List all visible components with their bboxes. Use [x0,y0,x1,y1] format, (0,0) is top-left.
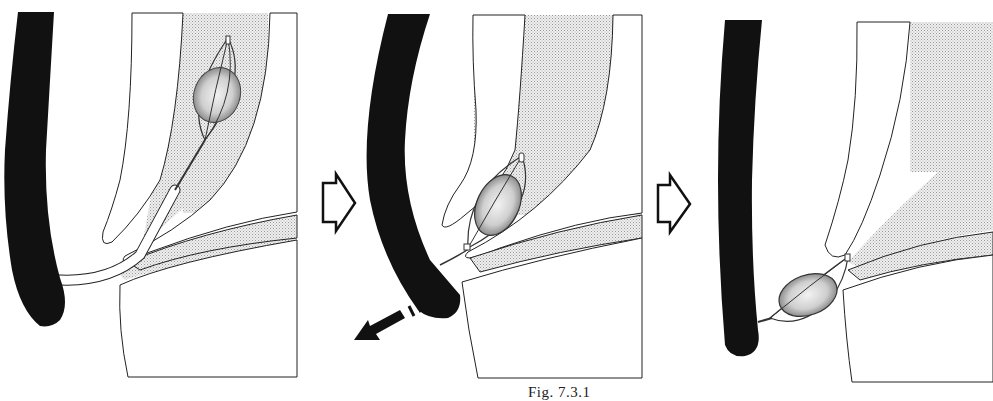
step-arrow-2-icon [658,175,690,232]
step-arrow-1-icon [323,174,355,231]
endoscope-2 [367,14,461,318]
panel-1 [4,12,297,377]
panel-3 [718,20,993,382]
panel-2 [354,14,642,378]
endoscope-1 [4,12,65,326]
withdraw-arrow-icon [354,302,421,340]
figure-caption: Fig. 7.3.1 [528,384,591,401]
endoscope-3 [718,20,762,356]
basket-with-stone-3 [758,254,850,324]
